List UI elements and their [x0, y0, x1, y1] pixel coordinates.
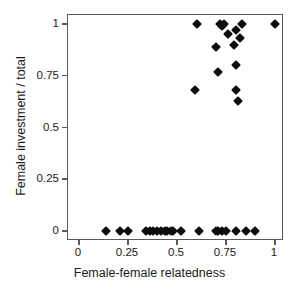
- scatter-plot-figure: 00.250.50.751 00.250.50.751 Female-femal…: [0, 0, 299, 294]
- data-point: [211, 42, 221, 52]
- data-point: [176, 226, 186, 236]
- data-point: [241, 226, 251, 236]
- data-points-layer: [68, 15, 282, 239]
- y-tick: [62, 75, 67, 77]
- x-tick: [127, 240, 129, 245]
- x-axis-label: Female-female relatedness: [0, 266, 299, 280]
- x-tick-label: 1: [254, 246, 294, 258]
- data-point: [233, 96, 243, 106]
- data-point: [192, 19, 202, 29]
- x-tick-label: 0: [58, 246, 98, 258]
- y-tick: [62, 178, 67, 180]
- x-tick-label: 0.5: [156, 246, 196, 258]
- y-tick: [62, 127, 67, 129]
- plot-area: [67, 14, 283, 240]
- x-tick: [78, 240, 80, 245]
- data-point: [213, 67, 223, 77]
- data-point: [250, 226, 260, 236]
- y-tick-label: 0: [0, 224, 59, 236]
- data-point: [194, 226, 204, 236]
- y-tick: [62, 23, 67, 25]
- data-point: [231, 85, 241, 95]
- data-point: [231, 60, 241, 70]
- data-point: [231, 226, 241, 236]
- x-tick-label: 0.75: [205, 246, 245, 258]
- data-point: [190, 85, 200, 95]
- y-tick-label: 0.5: [0, 121, 59, 133]
- y-axis-label: Female investment / total: [14, 6, 28, 246]
- data-point: [101, 226, 111, 236]
- y-tick-label: 1: [0, 17, 59, 29]
- x-tick: [225, 240, 227, 245]
- x-tick-label: 0.25: [107, 246, 147, 258]
- x-tick: [274, 240, 276, 245]
- y-tick-label: 0.25: [0, 172, 59, 184]
- x-tick: [176, 240, 178, 245]
- data-point: [123, 226, 133, 236]
- y-tick: [62, 230, 67, 232]
- y-tick-label: 0.75: [0, 69, 59, 81]
- data-point: [270, 19, 280, 29]
